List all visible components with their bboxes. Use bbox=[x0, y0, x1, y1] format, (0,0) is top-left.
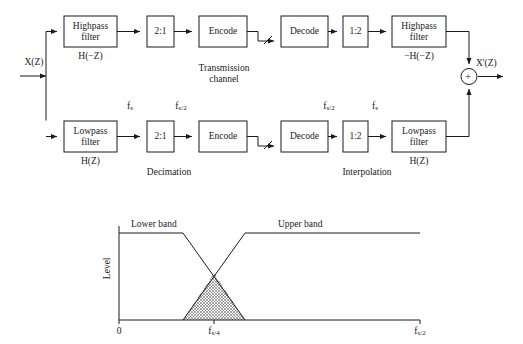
label-decimator-lower: 2:1 bbox=[147, 121, 174, 152]
label-rate-fs2-after-decimation: fs/2 bbox=[167, 101, 195, 113]
label-interpolator-lower: 1:2 bbox=[343, 121, 368, 152]
label-interpolator-upper: 1:2 bbox=[343, 16, 368, 47]
wire-channel-lower bbox=[247, 137, 274, 147]
label-decode-upper: Decode bbox=[281, 16, 328, 47]
label-encode-lower: Encode bbox=[199, 121, 247, 152]
band-chart-vector bbox=[119, 226, 420, 324]
label-lowpass-filter-in: Lowpassfilter bbox=[64, 121, 117, 152]
label-decimation: Decimation bbox=[129, 167, 209, 178]
label-highpass-filter-in: Highpassfilter bbox=[64, 16, 117, 47]
wire-channel-upper bbox=[247, 32, 274, 42]
label-rate-fs2-before-interpolation: fs/2 bbox=[315, 101, 343, 113]
chart-xtick-label-0: 0 bbox=[108, 326, 130, 338]
label-decode-lower: Decode bbox=[281, 121, 328, 152]
label-decimator-upper: 2:1 bbox=[147, 16, 174, 47]
label-transmission-channel: Transmissionchannel bbox=[184, 63, 264, 84]
label-transfer-lp-out: H(Z) bbox=[392, 156, 446, 167]
label-transfer-lp-in: H(Z) bbox=[60, 156, 121, 167]
chart-xtick-label-fs4: fs/4 bbox=[201, 326, 227, 338]
label-lowpass-filter-out: Lowpassfilter bbox=[392, 121, 446, 152]
annotation-upper-band: Upper band bbox=[278, 219, 360, 230]
label-transfer-hp-out: −H(−Z) bbox=[386, 51, 452, 62]
figure-canvas: Highpassfilter 2:1 Encode Decode 1:2 Hig… bbox=[0, 0, 523, 344]
channel-break-lower bbox=[264, 141, 272, 149]
label-rate-fs-after-interpolation: fs bbox=[364, 101, 386, 113]
crossover-overlap-region bbox=[183, 273, 245, 320]
label-output-signal: X'(Z) bbox=[476, 58, 497, 69]
wire-lower-to-sum bbox=[446, 89, 469, 137]
label-interpolation: Interpolation bbox=[322, 167, 412, 178]
chart-xtick-label-fs2: fs/2 bbox=[407, 326, 433, 338]
label-rate-fs-before-decimation: fs bbox=[119, 101, 141, 113]
label-highpass-filter-out: Highpassfilter bbox=[392, 16, 446, 47]
sum-node-plus-symbol: + bbox=[465, 71, 471, 82]
annotation-lower-band: Lower band bbox=[131, 219, 211, 230]
label-transfer-hp-in: H(−Z) bbox=[60, 51, 121, 62]
channel-break-upper bbox=[264, 36, 272, 44]
label-encode-upper: Encode bbox=[199, 16, 247, 47]
label-input-signal: X(Z) bbox=[12, 57, 56, 68]
chart-y-axis-label: Level bbox=[102, 246, 113, 290]
